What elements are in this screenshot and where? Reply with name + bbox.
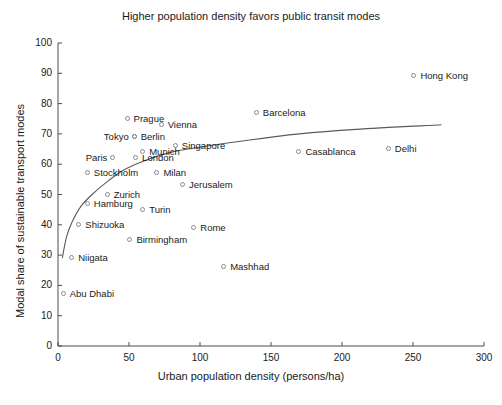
data-point-marker xyxy=(140,207,145,212)
data-point-label: Stockholm xyxy=(94,167,138,178)
data-point-label: Abu Dhabi xyxy=(70,288,114,299)
data-point-label: Hong Kong xyxy=(420,70,468,81)
data-point-label: Mashhad xyxy=(230,261,269,272)
data-point-label: Delhi xyxy=(395,143,417,154)
data-point-marker xyxy=(125,116,130,121)
data-point-label: Vienna xyxy=(168,119,197,130)
y-tick-label: 40 xyxy=(24,219,52,230)
data-point-label: Tokyo xyxy=(0,131,129,142)
y-tick-label: 0 xyxy=(24,340,52,351)
data-point-label: Jerusalem xyxy=(189,179,233,190)
y-tick-label: 90 xyxy=(24,67,52,78)
x-tick-label: 300 xyxy=(464,352,502,363)
data-point-label: Hamburg xyxy=(94,198,133,209)
scatter-chart-figure: Higher population density favors public … xyxy=(0,0,502,405)
data-point-label: London xyxy=(142,152,174,163)
x-tick-label: 50 xyxy=(109,352,149,363)
data-point-label: Rome xyxy=(200,222,225,233)
data-point-label: Berlin xyxy=(141,131,165,142)
data-point-marker xyxy=(386,146,391,151)
data-point-label: Singapore xyxy=(182,140,225,151)
x-tick-label: 100 xyxy=(180,352,220,363)
data-point-label: Turin xyxy=(149,204,170,215)
x-tick-label: 0 xyxy=(38,352,78,363)
data-point-label: Shizuoka xyxy=(85,219,124,230)
y-tick-label: 80 xyxy=(24,98,52,109)
data-point-marker xyxy=(105,192,110,197)
data-point-marker xyxy=(159,122,164,127)
x-tick-label: 150 xyxy=(251,352,291,363)
data-point-marker xyxy=(132,134,137,139)
y-tick-label: 50 xyxy=(24,189,52,200)
data-point-label: Paris xyxy=(0,152,107,163)
chart-axes xyxy=(0,0,502,405)
y-tick-label: 30 xyxy=(24,249,52,260)
y-tick-label: 100 xyxy=(24,37,52,48)
y-tick-label: 10 xyxy=(24,310,52,321)
data-point-label: Birmingham xyxy=(136,234,187,245)
y-tick-label: 20 xyxy=(24,279,52,290)
x-tick-label: 250 xyxy=(393,352,433,363)
data-point-label: Milan xyxy=(163,167,186,178)
data-point-label: Casablanca xyxy=(305,146,355,157)
data-point-label: Barcelona xyxy=(263,107,306,118)
data-point-marker xyxy=(254,110,259,115)
data-point-marker xyxy=(85,201,90,206)
data-point-label: Niigata xyxy=(78,252,108,263)
x-tick-label: 200 xyxy=(322,352,362,363)
